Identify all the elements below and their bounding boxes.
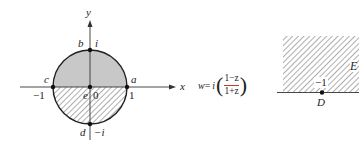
- point-e-value: 0: [93, 90, 99, 101]
- y-axis-label: y: [86, 7, 91, 18]
- point-b-label: b: [78, 38, 84, 49]
- x-axis-arrow-icon: [169, 85, 176, 90]
- conformal-map-figure: y x b i c −1 a 1 e 0 d −i w = i ( 1−z 1+…: [0, 0, 359, 146]
- figure-graphics: [0, 0, 359, 146]
- formula-factor: i: [212, 80, 215, 91]
- formula-numerator: 1−z: [224, 74, 238, 84]
- right-paren: ): [240, 74, 247, 96]
- point-d-value: −i: [94, 127, 104, 138]
- point-e: [88, 85, 92, 89]
- y-axis-arrow-icon: [88, 20, 93, 27]
- point-c-value: −1: [33, 90, 45, 101]
- point-a-value: 1: [129, 90, 135, 101]
- point-c-label: c: [44, 74, 49, 85]
- formula-lhs: w: [198, 80, 205, 91]
- point-b: [88, 48, 92, 52]
- point-a-label: a: [131, 74, 137, 85]
- point-d: [88, 122, 92, 126]
- point-c: [51, 85, 55, 89]
- point-D-label: D: [317, 97, 325, 108]
- formula-denominator: 1+z: [224, 87, 238, 97]
- mapping-formula: w = i ( 1−z 1+z ): [198, 74, 248, 97]
- point-b-value: i: [95, 38, 98, 49]
- point-D-value: −1: [314, 77, 328, 88]
- x-axis-label: x: [180, 81, 185, 92]
- formula-equals: =: [205, 80, 211, 91]
- point-d-label: d: [80, 127, 86, 138]
- point-D: [320, 90, 324, 94]
- region-E-label: E: [350, 60, 357, 72]
- formula-fraction: 1−z 1+z: [224, 74, 238, 97]
- left-paren: (: [216, 74, 223, 96]
- point-e-label: e: [83, 90, 88, 101]
